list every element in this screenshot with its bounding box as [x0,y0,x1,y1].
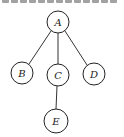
node-a-label: A [53,17,61,28]
node-a: A [47,11,69,33]
node-b-label: B [17,68,25,79]
node-c: C [47,64,69,86]
node-d-label: D [89,69,98,80]
edge-a-d [65,31,87,65]
tree-diagram: A B C D E [0,0,124,137]
node-c-label: C [54,70,62,81]
node-b: B [11,62,33,84]
node-e: E [44,109,68,133]
edge-c-e [56,86,57,109]
node-e-label: E [51,116,60,127]
node-d: D [83,63,105,85]
edge-a-b [29,31,51,64]
